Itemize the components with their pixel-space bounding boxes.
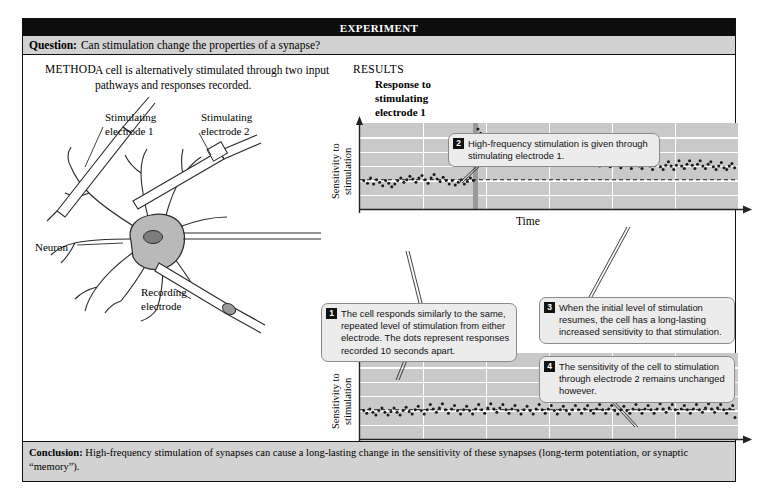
callout-1: 1 The cell responds similarly to the sam… [321, 303, 517, 362]
chart2-ylabel: Sensitivity to stimulation [330, 357, 356, 445]
label-stim2-text: Stimulating electrode 2 [201, 111, 252, 137]
figure-body: METHOD A cell is alternatively stimulate… [23, 55, 735, 443]
x-axis-arrow [743, 206, 752, 214]
callout-2: 2 High-frequency stimulation is given th… [448, 133, 660, 167]
label-neuron-text: Neuron [35, 241, 68, 253]
chart1-xlabel: Time [516, 215, 540, 227]
callout-1-number: 1 [326, 308, 337, 319]
question-text: Can stimulation change the properties of… [81, 39, 320, 51]
label-stimulating-electrode-1: Stimulating electrode 1 [105, 111, 156, 139]
callout-1-text: The cell responds similarly to the same,… [341, 308, 509, 356]
label-stimulating-electrode-2: Stimulating electrode 2 [201, 111, 252, 139]
callout-2-text: High-frequency stimulation is given thro… [468, 138, 648, 161]
nucleus [144, 231, 163, 244]
experiment-banner-title: EXPERIMENT [340, 22, 419, 34]
stimulating-electrode-2-icon [133, 135, 261, 209]
callout-4-number: 4 [544, 361, 555, 372]
callout-4: 4 The sensitivity of the cell to stimula… [539, 356, 735, 403]
method-text: A cell is alternatively stimulated throu… [95, 63, 345, 93]
chart1-title: Response to stimulating electrode 1 [375, 77, 431, 119]
x-axis-arrow [743, 436, 752, 444]
experiment-figure: EXPERIMENT Question: Can stimulation cha… [0, 0, 758, 500]
figure-frame: EXPERIMENT Question: Can stimulation cha… [22, 18, 736, 482]
conclusion-label: Conclusion: [29, 447, 83, 458]
callout-3-number: 3 [544, 302, 555, 313]
callout-3-text: When the initial level of stimulation re… [559, 302, 722, 337]
method-label: METHOD [45, 63, 96, 75]
callout-3: 3 When the initial level of stimulation … [539, 297, 735, 344]
label-neuron: Neuron [35, 241, 68, 255]
label-stim1-text: Stimulating electrode 1 [105, 111, 156, 137]
experiment-banner: EXPERIMENT [23, 19, 735, 36]
callout-2-number: 2 [453, 138, 464, 149]
callout-4-text: The sensitivity of the cell to stimulati… [559, 361, 725, 396]
results-label: RESULTS [353, 63, 404, 75]
conclusion-text: High-frequency stimulation of synapses c… [29, 447, 688, 472]
neuron-diagram: Stimulating electrode 1 Stimulating elec… [23, 93, 323, 343]
chart1-ylabel: Sensitivity to stimulation [330, 127, 356, 215]
conclusion-bar: Conclusion: High-frequency stimulation o… [23, 441, 735, 481]
question-bar: Question: Can stimulation change the pro… [23, 36, 735, 55]
label-rec-text: Recording electrode [141, 286, 187, 312]
label-recording-electrode: Recording electrode [141, 286, 187, 314]
question-label: Question: [29, 39, 77, 51]
